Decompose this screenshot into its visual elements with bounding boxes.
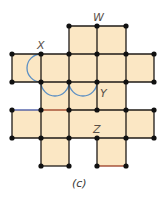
grid-diagram: W X Y Z (c) [0, 0, 162, 198]
figure-caption: (c) [72, 177, 87, 190]
label-w: W [93, 11, 105, 24]
label-x: X [36, 39, 45, 52]
label-z: Z [92, 123, 101, 136]
